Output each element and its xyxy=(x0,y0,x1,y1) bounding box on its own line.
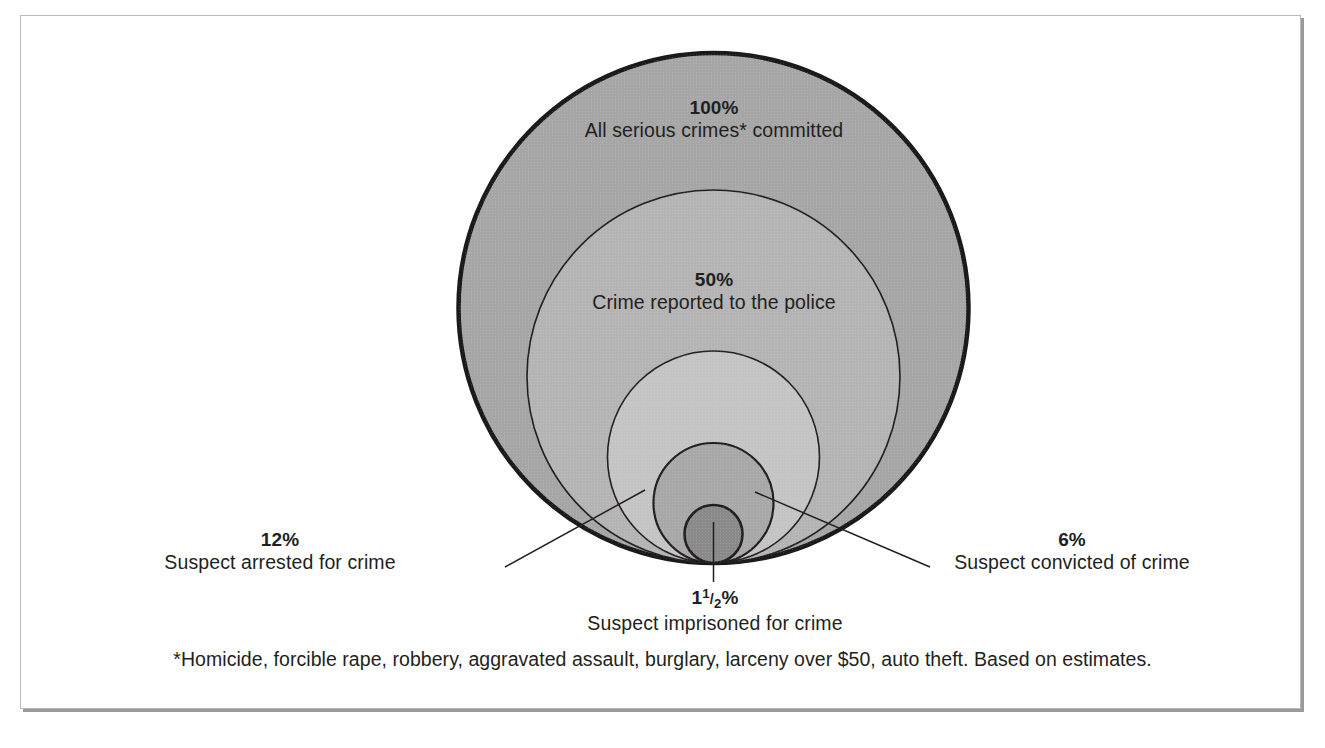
label-imprisoned: 11/2% Suspect imprisoned for crime xyxy=(525,586,905,636)
description-arrested: Suspect arrested for crime xyxy=(60,551,500,575)
percent-convicted: 6% xyxy=(872,528,1272,551)
description-convicted: Suspect convicted of crime xyxy=(872,551,1272,575)
label-convicted: 6% Suspect convicted of crime xyxy=(872,528,1272,575)
fraction-denominator: 2 xyxy=(714,596,721,611)
percent-reported: 50% xyxy=(484,268,944,291)
label-all-crimes: 100% All serious crimes* committed xyxy=(484,96,944,143)
description-imprisoned: Suspect imprisoned for crime xyxy=(525,612,905,636)
percent-imprisoned-whole: 1 xyxy=(692,587,703,608)
percent-arrested: 12% xyxy=(60,528,500,551)
footnote-text: *Homicide, forcible rape, robbery, aggra… xyxy=(0,648,1325,671)
percent-imprisoned-fraction: 1/2 xyxy=(702,591,721,607)
percent-all-crimes: 100% xyxy=(484,96,944,119)
label-arrested: 12% Suspect arrested for crime xyxy=(60,528,500,575)
label-reported: 50% Crime reported to the police xyxy=(484,268,944,315)
fraction-numerator: 1 xyxy=(702,586,709,601)
percent-imprisoned: 11/2% xyxy=(525,586,905,612)
figure-page: 100% All serious crimes* committed 50% C… xyxy=(0,0,1325,748)
description-reported: Crime reported to the police xyxy=(484,291,944,315)
description-all-crimes: All serious crimes* committed xyxy=(484,119,944,143)
percent-imprisoned-sign: % xyxy=(721,587,738,608)
